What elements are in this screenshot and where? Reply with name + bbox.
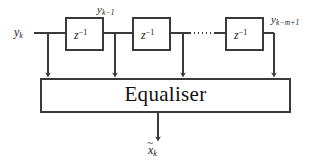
label-tap-last-signal: yk−m+1 xyxy=(271,14,299,27)
label-output-subscript: k xyxy=(153,149,157,158)
delay-3-exponent: −1 xyxy=(239,28,248,37)
equaliser-block-label: Equaliser xyxy=(41,82,290,107)
output-base-wrap: ~x xyxy=(148,144,153,156)
label-input-subscript: k xyxy=(19,31,23,40)
label-tap1-signal: yk−1 xyxy=(97,4,115,17)
output-tilde-accent: ~ xyxy=(147,137,153,148)
figure-canvas: yk yk−1 yk−m+1 z−1 z−1 z−1 Equaliser ~xk xyxy=(0,0,327,162)
delay-block-3-label: z−1 xyxy=(234,28,247,43)
delay-1-exponent: −1 xyxy=(79,28,88,37)
delay-block-2-label: z−1 xyxy=(141,28,154,43)
delay-block-1-label: z−1 xyxy=(74,28,87,43)
label-tap-last-subscript: k−m+1 xyxy=(276,18,300,27)
label-output-signal: ~xk xyxy=(148,144,157,158)
label-input-signal: yk xyxy=(14,26,23,40)
label-tap1-subscript: k−1 xyxy=(102,8,115,17)
delay-2-exponent: −1 xyxy=(146,28,155,37)
